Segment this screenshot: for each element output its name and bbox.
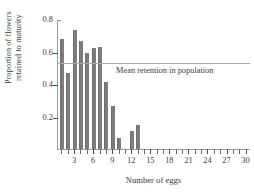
x-tick-mark (100, 149, 101, 154)
bar (79, 41, 83, 149)
x-tick-mark (74, 149, 75, 154)
x-axis-title: Number of eggs (57, 175, 250, 185)
bar (117, 138, 121, 149)
x-tick-mark (112, 149, 113, 154)
y-tick-label: 0.6 (43, 48, 53, 56)
x-tick-mark (61, 149, 62, 154)
y-axis-title: Proportion of flowers retained to maturi… (4, 0, 23, 110)
x-tick-mark (163, 149, 164, 154)
x-tick-label: 27 (222, 157, 230, 165)
plot-area: 0.20.40.60.8 36912151821242730 Mean rete… (57, 20, 250, 150)
x-tick-label: 21 (184, 157, 192, 165)
bar (85, 53, 89, 149)
mean-retention-line (57, 63, 250, 64)
x-tick-label: 9 (110, 157, 114, 165)
y-tick-mark (53, 85, 58, 86)
x-tick-mark (207, 149, 208, 154)
x-tick-mark (214, 149, 215, 154)
bar (66, 73, 70, 149)
x-tick-mark (220, 149, 221, 154)
x-tick-mark (239, 149, 240, 154)
x-tick-mark (125, 149, 126, 154)
x-tick-mark (119, 149, 120, 154)
bar (104, 82, 108, 149)
x-tick-mark (150, 149, 151, 154)
bar (136, 125, 140, 149)
x-tick-mark (131, 149, 132, 154)
x-tick-mark (188, 149, 189, 154)
x-tick-label: 15 (146, 157, 154, 165)
x-tick-label: 18 (165, 157, 173, 165)
x-tick-mark (157, 149, 158, 154)
bar (111, 106, 115, 149)
bar (60, 39, 64, 150)
x-tick-mark (169, 149, 170, 154)
x-tick-mark (93, 149, 94, 154)
x-tick-label: 12 (127, 157, 135, 165)
x-tick-mark (106, 149, 107, 154)
x-tick-label: 30 (241, 157, 249, 165)
x-tick-label: 3 (72, 157, 76, 165)
x-tick-mark (176, 149, 177, 154)
x-tick-mark (68, 149, 69, 154)
x-tick-mark (182, 149, 183, 154)
x-tick-mark (227, 149, 228, 154)
bar (130, 131, 134, 149)
x-tick-mark (80, 149, 81, 154)
y-tick-label: 0.8 (43, 16, 53, 24)
y-tick-mark (53, 53, 58, 54)
y-tick-label: 0.2 (43, 113, 53, 121)
y-tick-mark (57, 20, 61, 21)
x-tick-mark (144, 149, 145, 154)
x-tick-mark (138, 149, 139, 154)
x-tick-label: 24 (203, 157, 211, 165)
chart-figure: Proportion of flowers retained to maturi… (0, 0, 254, 196)
bar (98, 47, 102, 149)
x-tick-label: 6 (91, 157, 95, 165)
x-tick-mark (201, 149, 202, 154)
y-tick-mark (53, 118, 58, 119)
y-tick-label: 0.4 (43, 81, 53, 89)
mean-retention-label: Mean retention in population (116, 66, 213, 75)
x-tick-mark (233, 149, 234, 154)
x-tick-mark (195, 149, 196, 154)
x-tick-mark (246, 149, 247, 154)
bar (73, 30, 77, 149)
x-tick-mark (87, 149, 88, 154)
